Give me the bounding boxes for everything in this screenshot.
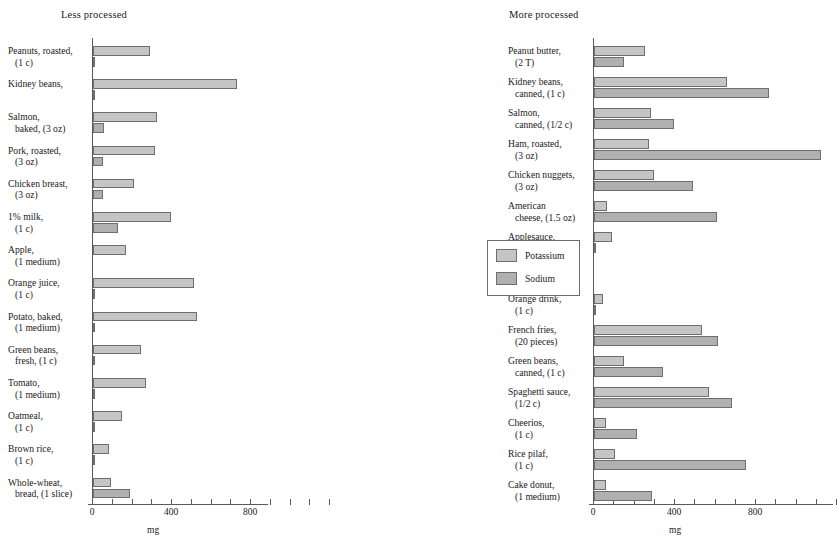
bar-potassium [93, 411, 122, 421]
row-label: Salmon,baked, (3 oz) [8, 111, 90, 134]
row-label: Orange juice,(1 c) [8, 277, 90, 300]
row-label-line1: Green beans, [8, 344, 90, 356]
row-label-line2: (2 T) [508, 57, 592, 69]
x-tick-left-500 [191, 499, 192, 505]
row-label: Cake donut,(1 medium) [508, 479, 592, 502]
legend-swatch-sodium [496, 272, 517, 285]
row-label-line2: canned, (1 c) [508, 88, 592, 100]
row-label: Tomato,(1 medium) [8, 377, 90, 400]
bar-sodium [93, 289, 95, 299]
bar-potassium [594, 77, 727, 87]
bar-sodium [594, 181, 693, 191]
row-label: French fries,(20 pieces) [508, 324, 592, 347]
bar-potassium [93, 378, 146, 388]
row-label-line2: baked, (3 oz) [8, 123, 90, 135]
bar-sodium [594, 429, 637, 439]
x-tick-right-700 [735, 499, 736, 505]
row-label: Ham, roasted,(3 oz) [508, 138, 592, 161]
x-ticklabel-left-400: 400 [164, 507, 178, 517]
bar-potassium [93, 146, 155, 156]
row-label-line1: American [508, 200, 592, 212]
bar-potassium [93, 278, 194, 288]
bar-sodium [93, 356, 95, 366]
x-axis-caption-right: mg [669, 525, 681, 535]
row-label-line2: (3 oz) [508, 181, 592, 193]
bar-potassium [594, 232, 612, 242]
bar-sodium [93, 157, 103, 167]
row-label-line2: canned, (1 c) [508, 367, 592, 379]
row-label: Orange drink,(1 c) [508, 293, 592, 316]
row-label-line1: Potato, baked, [8, 311, 90, 323]
bar-potassium [93, 212, 171, 222]
legend-label-potassium: Potassium [525, 248, 564, 263]
row-label-line2: fresh, (1 c) [8, 355, 90, 367]
row-label-line2: (1 c) [8, 455, 90, 467]
bar-potassium [93, 312, 197, 322]
bar-sodium [594, 367, 663, 377]
row-label-line2: (1 medium) [8, 322, 90, 334]
row-label-line1: Kidney beans, [508, 76, 592, 88]
bar-sodium [594, 119, 674, 129]
row-label-line1: Brown rice, [8, 443, 90, 455]
plot-area-more-processed: mg 0400800 [593, 38, 825, 504]
row-label-line2: (1 c) [508, 429, 592, 441]
row-label: 1% milk,(1 c) [8, 211, 90, 234]
row-label: Rice pilaf,(1 c) [508, 448, 592, 471]
row-label-line1: Ham, roasted, [508, 138, 592, 150]
bar-potassium [594, 418, 606, 428]
row-label: Peanuts, roasted,(1 c) [8, 45, 90, 68]
bar-sodium [93, 90, 95, 100]
row-label: Whole-wheat,bread, (1 slice) [8, 477, 90, 500]
bar-potassium [93, 444, 109, 454]
row-label: Green beans,canned, (1 c) [508, 355, 592, 378]
bar-sodium [93, 57, 95, 67]
row-label: Green beans,fresh, (1 c) [8, 344, 90, 367]
row-label-line2: (1 c) [8, 289, 90, 301]
x-tick-right-1100 [816, 499, 817, 505]
row-label-line1: Spaghetti sauce, [508, 386, 592, 398]
row-label-line2: (1 medium) [508, 491, 592, 503]
row-label: Pork, roasted,(3 oz) [8, 145, 90, 168]
row-label-line1: French fries, [508, 324, 592, 336]
y-axis-line-left [92, 38, 93, 504]
row-label: Chicken breast,(3 oz) [8, 178, 90, 201]
x-axis-caption-left: mg [147, 525, 159, 535]
bar-sodium [93, 422, 95, 432]
x-tick-left-100 [112, 499, 113, 505]
row-label-line1: Kidney beans, [8, 78, 90, 90]
x-tick-left-300 [151, 499, 152, 505]
bar-potassium [594, 294, 603, 304]
bar-sodium [594, 57, 624, 67]
bar-potassium [93, 179, 134, 189]
row-label: Kidney beans, [8, 78, 90, 90]
row-label-line2: (3 oz) [8, 156, 90, 168]
bar-sodium [93, 323, 95, 333]
row-label: Apple,(1 medium) [8, 244, 90, 267]
row-label-line2: (1 c) [508, 460, 592, 472]
bar-sodium [594, 491, 652, 501]
bar-potassium [594, 139, 649, 149]
bar-potassium [594, 170, 654, 180]
bar-sodium [93, 223, 118, 233]
row-label: Oatmeal,(1 c) [8, 410, 90, 433]
row-label-line2: (3 oz) [8, 189, 90, 201]
bar-potassium [93, 112, 157, 122]
bar-sodium [594, 305, 596, 315]
row-label-line1: Rice pilaf, [508, 448, 592, 460]
panel-title-less-processed: Less processed [61, 9, 127, 20]
bar-sodium [594, 212, 717, 222]
bar-sodium [594, 460, 746, 470]
x-ticklabel-right-400: 400 [667, 507, 681, 517]
bar-potassium [93, 245, 126, 255]
legend-swatch-potassium [496, 249, 517, 262]
bar-potassium [93, 79, 237, 89]
x-ticklabel-left-0: 0 [90, 507, 95, 517]
row-label-line1: Orange juice, [8, 277, 90, 289]
bar-potassium [594, 108, 651, 118]
x-tick-right-400 [674, 499, 675, 505]
row-label: Americancheese, (1.5 oz) [508, 200, 592, 223]
x-ticklabel-right-0: 0 [591, 507, 596, 517]
bar-potassium [93, 345, 141, 355]
x-tick-left-200 [132, 499, 133, 505]
row-label: Potato, baked,(1 medium) [8, 311, 90, 334]
